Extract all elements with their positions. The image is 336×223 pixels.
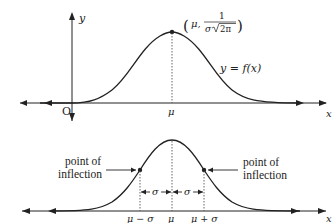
right-annotation-line1: point of <box>243 156 279 169</box>
top-y-axis-label: y <box>78 12 86 25</box>
top-y-axis-up-arrow-icon <box>69 12 75 20</box>
top-mean-label: μ <box>168 106 175 117</box>
sigma-right-label: σ <box>184 186 191 197</box>
open-paren: ( <box>183 17 189 35</box>
fraction-root: 2π <box>220 24 231 34</box>
sigma-left-label: σ <box>152 186 159 197</box>
close-paren: ) <box>237 17 243 35</box>
curve-label: y = f(x) <box>219 62 261 75</box>
tick-label-mu: μ <box>168 213 174 223</box>
fraction-numerator: 1 <box>219 11 225 21</box>
bottom-x-axis-right-arrow-icon <box>318 208 326 214</box>
top-x-axis-label: x <box>326 108 332 119</box>
fraction-sigma: σ <box>205 24 212 34</box>
normal-distribution-diagram: y x O μ ( μ, 1 σ 2π ) y = f(x) <box>0 0 336 223</box>
peak-coordinate-label: ( μ, 1 σ 2π ) <box>183 11 243 35</box>
left-annotation-line2: inflection <box>58 168 102 180</box>
tick-label-mu-plus-sigma: μ + σ <box>191 213 218 223</box>
top-x-axis-right-arrow-icon <box>319 100 327 106</box>
peak-mu: μ, <box>191 18 201 29</box>
bottom-graph: σ σ point of inflection point of inflect… <box>22 140 332 223</box>
origin-label: O <box>62 105 71 118</box>
right-annotation-line2: inflection <box>243 169 287 181</box>
bottom-x-axis-left-arrow-icon <box>22 208 30 214</box>
tick-label-mu-minus-sigma: μ − σ <box>127 213 154 223</box>
left-annotation-line1: point of <box>65 155 101 168</box>
top-graph: y x O μ ( μ, 1 σ 2π ) y = f(x) <box>20 11 332 121</box>
bottom-x-axis-label: x <box>326 213 332 223</box>
